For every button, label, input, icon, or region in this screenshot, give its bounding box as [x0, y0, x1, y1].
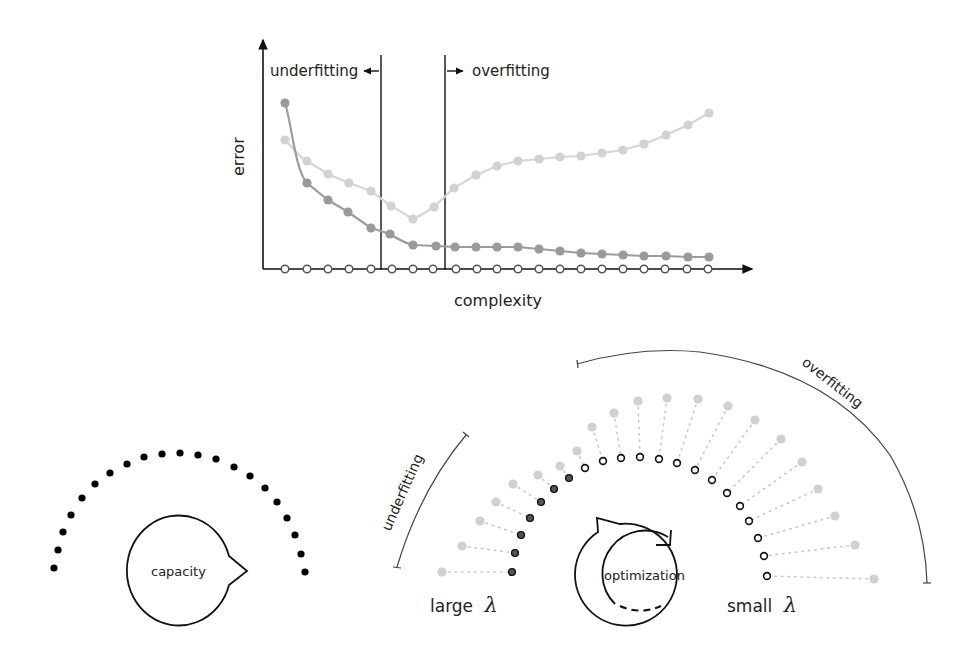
overfitting-bracket-tick-start	[577, 360, 578, 368]
overfitting-bracket	[577, 351, 927, 584]
diagram-canvas: underfitting overfitting error complexit…	[0, 0, 976, 653]
y-axis-label: error	[229, 137, 248, 176]
large-lambda-label: large λ	[430, 593, 498, 617]
training-error-points	[280, 98, 713, 261]
small-lambda-label: small λ	[727, 593, 797, 617]
underfitting-bracket-tick-bottom	[393, 567, 401, 568]
lambda-symbol: λ	[484, 593, 498, 617]
capacity-panel: capacity	[50, 449, 308, 625]
small-word: small	[727, 596, 772, 616]
underfitting-bracket	[397, 435, 466, 567]
overfitting-arc-label: overfitting	[799, 354, 866, 411]
lambda-symbol: λ	[783, 593, 797, 617]
x-axis-label: complexity	[454, 291, 542, 310]
regularization-panel: underfitting overfitting large λ small λ…	[378, 351, 931, 626]
dotted-connectors	[442, 398, 874, 579]
large-word: large	[430, 596, 473, 616]
underfitting-bracket-tick-top	[463, 432, 469, 437]
test-error-points	[280, 108, 713, 223]
capacity-label: capacity	[151, 564, 206, 579]
baseline-markers	[281, 265, 712, 273]
inner-filled-dots	[509, 475, 573, 576]
optimization-label: optimization	[604, 568, 685, 583]
outer-gray-dots	[437, 393, 878, 583]
optimization-dashed-tail	[620, 606, 661, 611]
inner-open-dots	[582, 454, 771, 580]
error-complexity-chart: underfitting overfitting error complexit…	[229, 40, 752, 310]
underfitting-arc-label: underfitting	[378, 451, 426, 533]
optimization-loop-icon: optimization	[575, 518, 685, 626]
overfitting-label: overfitting	[472, 62, 550, 80]
underfitting-label: underfitting	[270, 62, 358, 80]
